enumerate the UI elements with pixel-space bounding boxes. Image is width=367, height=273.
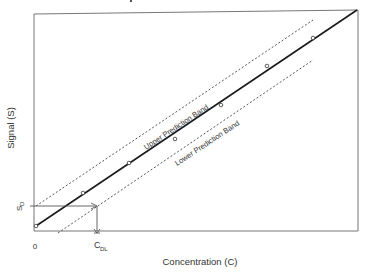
svg-text:D: D	[19, 201, 25, 206]
sd-label: S D	[15, 201, 25, 211]
y-axis-title: Signal (S)	[5, 107, 16, 149]
x-tick-0: 0	[33, 242, 38, 251]
lower-prediction-band	[58, 60, 313, 233]
x-axis-title: Concentration (C)	[163, 256, 238, 267]
cdl-sub: DL	[100, 246, 108, 252]
plot-frame	[34, 10, 358, 231]
calibration-chart: S D Upper Prediction Band Lower Predicti…	[0, 0, 367, 273]
upper-prediction-band	[36, 20, 313, 206]
cropped-title-fragment	[130, 0, 132, 2]
